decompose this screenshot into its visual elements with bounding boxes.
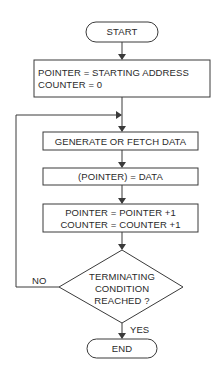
generate-label: GENERATE OR FETCH DATA xyxy=(43,136,198,147)
decision-line1: TERMINATING xyxy=(62,271,182,282)
start-label: START xyxy=(86,26,158,37)
decision-line3: REACHED ? xyxy=(62,295,182,306)
no-label: NO xyxy=(32,275,46,286)
increment-line1: POINTER = POINTER +1 xyxy=(43,207,198,218)
yes-label: YES xyxy=(130,324,149,335)
store-label: (POINTER) = DATA xyxy=(43,171,198,182)
flowchart-canvas xyxy=(0,0,222,371)
init-line1: POINTER = STARTING ADDRESS xyxy=(38,67,189,78)
init-line2: COUNTER = 0 xyxy=(38,79,102,90)
end-label: END xyxy=(87,343,157,354)
increment-line2: COUNTER = COUNTER +1 xyxy=(43,219,198,230)
decision-line2: CONDITION xyxy=(62,283,182,294)
